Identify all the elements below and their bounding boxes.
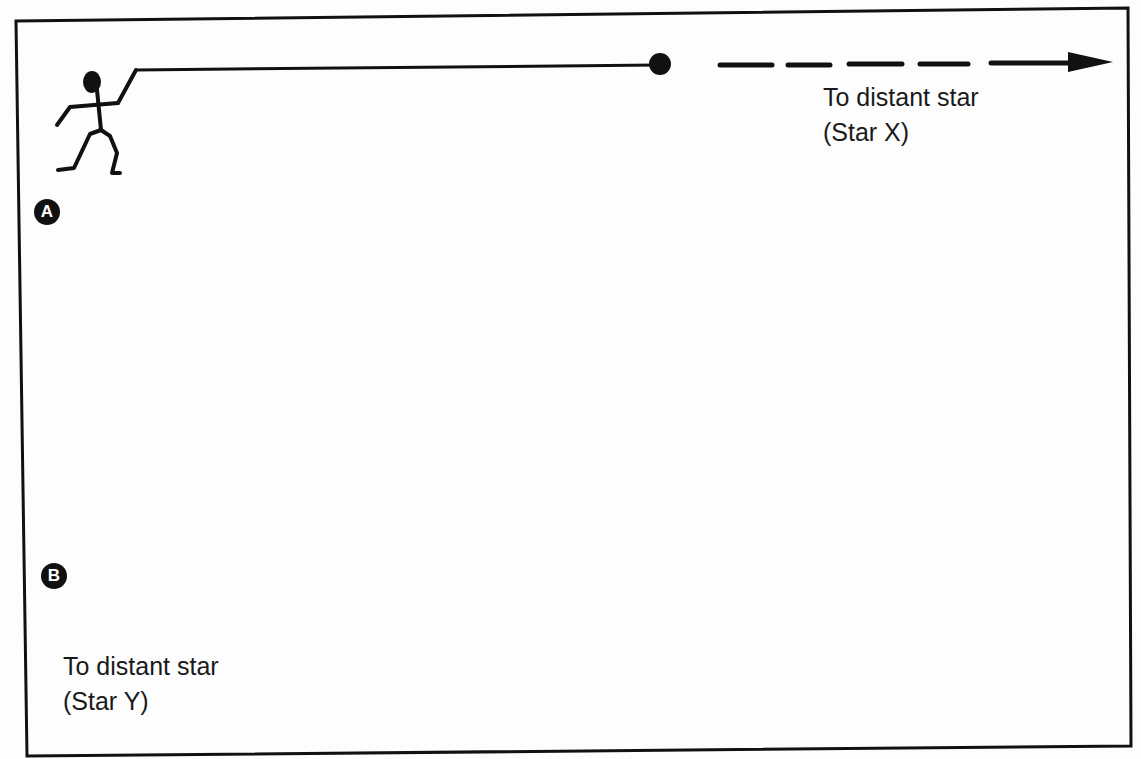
frame-border (16, 8, 1131, 756)
arrowhead-right-icon (1068, 52, 1113, 72)
caption-star-y-line1: To distant star (63, 651, 219, 682)
diagram-svg (0, 0, 1141, 759)
arrow-to-star-x (720, 63, 1075, 65)
stick-figure-a-icon (57, 70, 136, 173)
panel-label-badge-a: A (34, 199, 60, 225)
caption-star-x-line2: (Star X) (823, 117, 909, 148)
caption-star-x-line1: To distant star (823, 82, 979, 113)
caption-star-y-line2: (Star Y) (63, 686, 149, 717)
rope-a (136, 65, 658, 70)
ball-a (649, 53, 671, 75)
diagram-canvas: A To distant star (Star X) B To distant … (0, 0, 1141, 759)
panel-label-badge-b: B (41, 563, 67, 589)
